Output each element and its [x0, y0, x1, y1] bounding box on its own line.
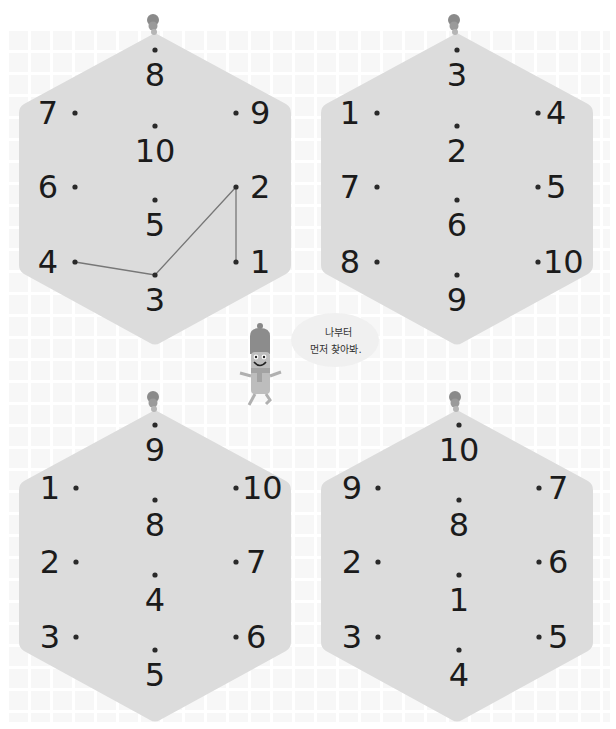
label-lower-left: 3: [342, 618, 362, 656]
label-center-lower: 6: [447, 206, 467, 244]
label-upper-left: 7: [38, 94, 58, 132]
pushpin-icon: [147, 391, 159, 412]
label-lower-right: 5: [548, 618, 568, 656]
puzzle-bottom-left: 9 1 10 8 2 7 4 3 6 5: [19, 391, 291, 722]
label-bottom: 5: [145, 656, 165, 694]
dot-lower-left[interactable]: [375, 634, 380, 639]
dot-bottom[interactable]: [456, 647, 461, 652]
dot-middle-right[interactable]: [233, 184, 238, 189]
speech-bubble: 나부터 먼저 찾아봐.: [291, 313, 379, 367]
dot-upper-right[interactable]: [536, 485, 541, 490]
pushpin-icon: [449, 391, 461, 412]
dot-lower-right[interactable]: [536, 634, 541, 639]
dot-middle-right[interactable]: [535, 184, 540, 189]
dot-top[interactable]: [152, 47, 157, 52]
label-center-lower: 1: [449, 581, 469, 619]
dot-lower-left[interactable]: [374, 259, 379, 264]
pushpin-icon: [147, 14, 159, 35]
label-upper-right: 7: [548, 469, 568, 507]
dot-middle-left[interactable]: [73, 559, 78, 564]
label-middle-right: 5: [546, 168, 566, 206]
label-middle-left: 7: [340, 168, 360, 206]
dot-center-upper[interactable]: [456, 497, 461, 502]
label-lower-left: 8: [340, 243, 360, 281]
dot-bottom[interactable]: [152, 647, 157, 652]
label-upper-right: 4: [546, 94, 566, 132]
label-upper-left: 9: [342, 469, 362, 507]
mascot-character: [240, 323, 281, 405]
dot-upper-left[interactable]: [72, 110, 77, 115]
dot-upper-left[interactable]: [375, 485, 380, 490]
pushpin-icon: [448, 14, 460, 35]
dot-center-lower[interactable]: [152, 197, 157, 202]
label-center-lower: 4: [145, 581, 165, 619]
puzzle-top-right: 3 1 4 2 7 5 6 8 10 9: [321, 14, 593, 345]
speech-line-2: 먼저 찾아봐.: [310, 344, 361, 355]
dot-middle-right[interactable]: [536, 559, 541, 564]
label-center-lower: 5: [145, 206, 165, 244]
label-middle-left: 2: [40, 543, 60, 581]
dot-upper-left[interactable]: [73, 485, 78, 490]
label-upper-right: 10: [242, 469, 283, 507]
label-bottom: 4: [449, 656, 469, 694]
puzzle-top-left: 8 7 9 10 6 2 5 4 1 3: [19, 14, 291, 345]
dot-center-upper[interactable]: [454, 123, 459, 128]
label-middle-left: 6: [38, 168, 58, 206]
dot-upper-right[interactable]: [233, 110, 238, 115]
dot-top[interactable]: [152, 422, 157, 427]
dot-center-lower[interactable]: [152, 572, 157, 577]
label-upper-left: 1: [340, 94, 360, 132]
dot-lower-right[interactable]: [233, 634, 238, 639]
label-middle-right: 7: [246, 543, 266, 581]
dot-upper-right[interactable]: [535, 110, 540, 115]
label-center-upper: 10: [135, 132, 176, 170]
dot-bottom[interactable]: [152, 272, 157, 277]
label-middle-left: 2: [342, 543, 362, 581]
label-lower-right: 10: [543, 243, 584, 281]
label-upper-left: 1: [40, 469, 60, 507]
dot-top[interactable]: [456, 422, 461, 427]
dot-puzzle-board: 8 7 9 10 6 2 5 4 1 3 3 1: [0, 0, 616, 729]
dot-middle-left[interactable]: [72, 184, 77, 189]
dot-upper-left[interactable]: [374, 110, 379, 115]
dot-bottom[interactable]: [454, 272, 459, 277]
label-middle-right: 6: [548, 543, 568, 581]
label-lower-left: 4: [38, 243, 58, 281]
label-lower-left: 3: [40, 618, 60, 656]
dot-middle-left[interactable]: [375, 559, 380, 564]
label-top: 3: [447, 56, 467, 94]
dot-middle-right[interactable]: [233, 559, 238, 564]
dot-lower-left[interactable]: [73, 634, 78, 639]
dot-upper-right[interactable]: [233, 485, 238, 490]
label-middle-right: 2: [250, 168, 270, 206]
label-top: 10: [439, 431, 480, 469]
dot-lower-right[interactable]: [233, 259, 238, 264]
label-top: 9: [145, 431, 165, 469]
dot-lower-right[interactable]: [535, 259, 540, 264]
puzzle-bottom-right: 10 9 7 8 2 6 1 3 5 4: [321, 391, 593, 722]
dot-center-upper[interactable]: [152, 123, 157, 128]
label-upper-right: 9: [250, 94, 270, 132]
label-bottom: 3: [145, 281, 165, 319]
label-lower-right: 6: [246, 618, 266, 656]
speech-line-1: 나부터: [325, 327, 352, 338]
label-top: 8: [145, 56, 165, 94]
label-center-upper: 2: [447, 132, 467, 170]
label-center-upper: 8: [449, 506, 469, 544]
dot-center-lower[interactable]: [454, 197, 459, 202]
dot-lower-left[interactable]: [72, 259, 77, 264]
label-bottom: 9: [447, 281, 467, 319]
label-lower-right: 1: [250, 243, 270, 281]
dot-top[interactable]: [454, 47, 459, 52]
dot-middle-left[interactable]: [374, 184, 379, 189]
dot-center-upper[interactable]: [152, 497, 157, 502]
dot-center-lower[interactable]: [456, 572, 461, 577]
label-center-upper: 8: [145, 506, 165, 544]
